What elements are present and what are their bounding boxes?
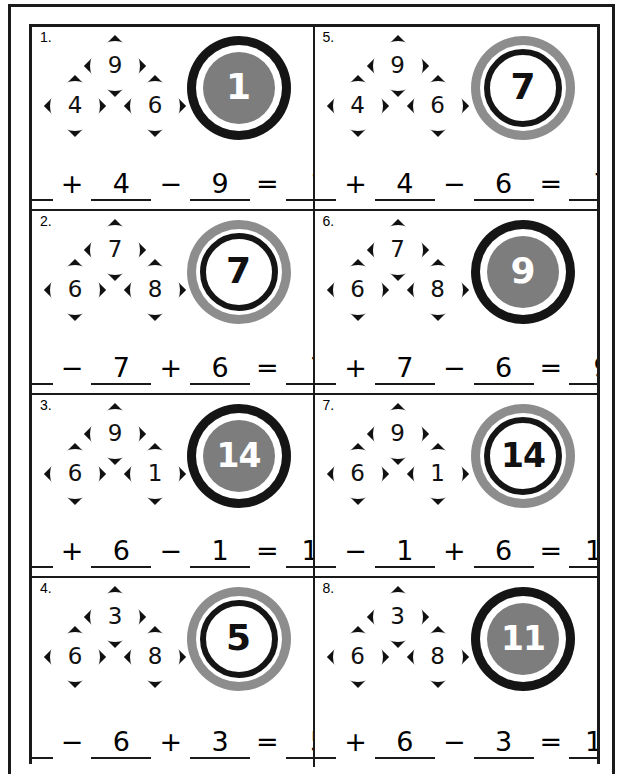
diamond-value: 4	[350, 94, 365, 117]
diamond-value: 8	[430, 278, 445, 301]
equation-operand-2[interactable]: 4	[91, 169, 151, 201]
diamond-value: 6	[430, 94, 445, 117]
equation-operand-3[interactable]: 3	[474, 727, 534, 759]
diamond-left: 4	[44, 75, 106, 137]
equation-operator-1: −	[336, 536, 375, 568]
diamond-value: 6	[68, 645, 83, 668]
diamond-value: 9	[108, 422, 123, 445]
equation-result[interactable]: 11	[569, 727, 597, 759]
equation-operand-3[interactable]: 6	[190, 353, 250, 385]
diamond-disc: 8	[130, 632, 180, 682]
diamond-value: 4	[68, 94, 83, 117]
diamond-value: 6	[68, 462, 83, 485]
diamond-left: 6	[327, 626, 389, 688]
diamond-left: 6	[327, 443, 389, 505]
equation-equals-sign: =	[534, 353, 570, 385]
badge-core: 7	[200, 233, 278, 311]
equation-operand-3[interactable]: 6	[474, 536, 534, 568]
equation-row: 6+4−9=1	[32, 169, 313, 201]
diamond-disc: 8	[130, 265, 180, 315]
equation-result[interactable]: 7	[286, 353, 315, 385]
diamond-value: 6	[68, 278, 83, 301]
diamond-left: 6	[44, 259, 106, 321]
diamond-value: 3	[390, 605, 405, 628]
equation-operand-3[interactable]: 6	[474, 169, 534, 201]
equation-operand-3[interactable]: 3	[190, 727, 250, 759]
equation-operand-1[interactable]: 9	[315, 169, 337, 201]
equation-result[interactable]: 7	[569, 169, 597, 201]
diamond-value: 1	[430, 462, 445, 485]
diamond-disc: 4	[50, 81, 100, 131]
diamond-left: 6	[44, 443, 106, 505]
equation-operand-1[interactable]: 9	[315, 536, 337, 568]
equation-operand-2[interactable]: 7	[91, 353, 151, 385]
equation-operator-2: −	[435, 727, 474, 759]
diamond-left: 6	[44, 626, 106, 688]
diamond-disc: 6	[333, 632, 383, 682]
badge-core: 14	[203, 420, 275, 492]
badge-core: 7	[484, 49, 562, 127]
equation-operand-2[interactable]: 6	[91, 727, 151, 759]
diamond-value: 6	[350, 462, 365, 485]
equation-operator-1: +	[336, 353, 375, 385]
problem-cell: 6.76898+7−6=9	[315, 211, 598, 395]
equation-row: 9−1+6=14	[315, 536, 598, 568]
equation-operator-1: −	[53, 727, 92, 759]
equation-result[interactable]: 9	[569, 353, 597, 385]
equation-operand-3[interactable]: 9	[190, 169, 250, 201]
equation-result[interactable]: 14	[286, 536, 315, 568]
equation-operator-1: +	[53, 536, 92, 568]
equation-operand-2[interactable]: 6	[91, 536, 151, 568]
equation-row: 8−7+6=7	[32, 353, 313, 385]
diamond-right: 8	[407, 259, 469, 321]
equation-operand-1[interactable]: 8	[315, 727, 337, 759]
equation-result[interactable]: 5	[286, 727, 315, 759]
answer-badge: 14	[187, 404, 291, 508]
equation-operator-2: +	[151, 353, 190, 385]
equation-operand-1[interactable]: 8	[32, 353, 53, 385]
equation-equals-sign: =	[534, 727, 570, 759]
equation-operand-1[interactable]: 8	[32, 727, 53, 759]
equation-operand-2[interactable]: 6	[375, 727, 435, 759]
equation-operator-2: +	[151, 727, 190, 759]
equation-equals-sign: =	[250, 169, 286, 201]
answer-badge: 7	[471, 36, 575, 140]
equation-equals-sign: =	[534, 169, 570, 201]
equation-result[interactable]: 1	[286, 169, 315, 201]
diamond-value: 9	[390, 422, 405, 445]
equation-operand-2[interactable]: 4	[375, 169, 435, 201]
equation-operand-3[interactable]: 1	[190, 536, 250, 568]
equation-result[interactable]: 14	[569, 536, 597, 568]
equation-equals-sign: =	[534, 536, 570, 568]
problem-cell: 5.94679+4−6=7	[315, 27, 598, 211]
diamond-left: 6	[327, 259, 389, 321]
diamond-right: 1	[124, 443, 186, 505]
equation-operand-3[interactable]: 6	[474, 353, 534, 385]
equation-operator-2: −	[435, 353, 474, 385]
equation-operator-2: +	[435, 536, 474, 568]
equation-row: 8+6−3=11	[315, 727, 598, 759]
problem-cell: 8.368118+6−3=11	[315, 578, 598, 767]
diamond-right: 6	[407, 75, 469, 137]
diamond-value: 6	[350, 278, 365, 301]
problem-cell: 3.961149+6−1=14	[32, 395, 315, 578]
equation-operator-1: −	[53, 353, 92, 385]
equation-operand-1[interactable]: 6	[32, 169, 53, 201]
badge-core: 5	[200, 600, 278, 678]
equation-operator-2: −	[151, 169, 190, 201]
equation-operand-1[interactable]: 9	[32, 536, 53, 568]
diamond-disc: 6	[413, 81, 463, 131]
badge-core: 11	[487, 603, 559, 675]
diamond-disc: 6	[50, 449, 100, 499]
equation-operator-1: +	[53, 169, 92, 201]
badge-core: 14	[484, 417, 562, 495]
diamond-disc: 8	[413, 632, 463, 682]
problem-cell: 2.76878−7+6=7	[32, 211, 315, 395]
diamond-value: 8	[148, 645, 163, 668]
equation-operand-2[interactable]: 7	[375, 353, 435, 385]
answer-value: 7	[226, 253, 251, 289]
diamond-value: 9	[108, 54, 123, 77]
equation-operand-1[interactable]: 8	[315, 353, 337, 385]
equation-operand-2[interactable]: 1	[375, 536, 435, 568]
diamond-right: 8	[124, 626, 186, 688]
